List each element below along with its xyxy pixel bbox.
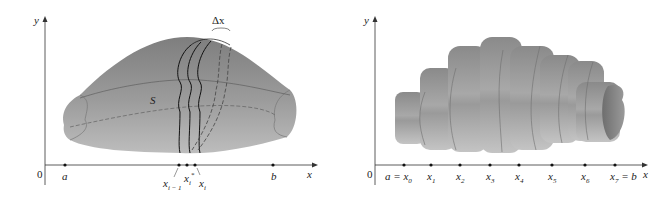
- origin-label-right: 0: [367, 168, 373, 180]
- partition-x7-label: x7 = b: [609, 170, 637, 185]
- y-axis-label: y: [33, 14, 39, 26]
- origin-label: 0: [37, 168, 43, 180]
- partition-x3-label: x3: [485, 170, 495, 185]
- point-xi-minus-1-label: xi − 1: [162, 177, 182, 192]
- partition-x2-label: x2: [455, 170, 465, 185]
- partition-x6-label: x6: [580, 170, 590, 185]
- cylindrical-bands: [395, 37, 625, 153]
- surface-of-revolution-figure: Δx S y x 0 a xi − 1 xi* xi b: [0, 0, 331, 197]
- point-b-label: b: [271, 170, 277, 182]
- partition-x1-label: x1: [426, 170, 435, 185]
- partition-x4-label: x4: [514, 170, 524, 185]
- cylindrical-bands-approximation-figure: y x 0 a = x0 x1 x2 x3 x4 x5 x6 x7 = b: [330, 0, 662, 197]
- point-a-label: a: [62, 170, 68, 182]
- x-axis-label: x: [306, 168, 312, 180]
- partition-x5-label: x5: [547, 170, 557, 185]
- y-axis-label-right: y: [363, 14, 369, 26]
- point-xi-label: xi: [198, 177, 206, 192]
- delta-x-label: Δx: [212, 14, 225, 26]
- point-xi-star-label: xi*: [183, 171, 195, 187]
- partition-x0-label: a = x0: [385, 170, 412, 185]
- x-axis-label-right: x: [642, 168, 648, 180]
- surface-label: S: [150, 94, 156, 106]
